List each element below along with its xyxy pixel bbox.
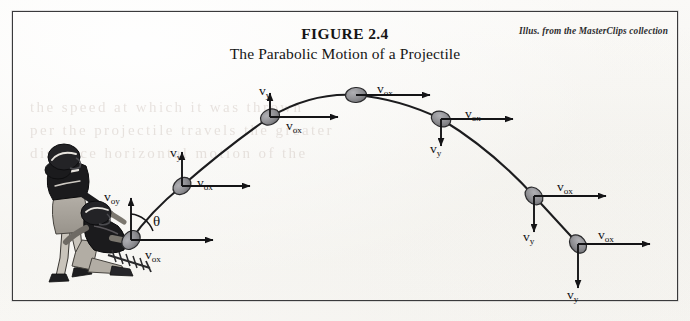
trajectory-point-launch	[118, 198, 213, 253]
projectile-motion-diagram	[0, 0, 690, 321]
trajectory-point-descent-3	[566, 232, 650, 288]
trajectory-point-descent-2	[522, 184, 606, 232]
football-players-illustration	[45, 144, 151, 282]
trajectory-point-ascent-1	[170, 152, 250, 198]
figure-container: the speed at which it was thrown per the…	[0, 0, 690, 321]
trajectory-path	[131, 95, 580, 246]
trajectory-point-ascent-2	[258, 93, 338, 128]
